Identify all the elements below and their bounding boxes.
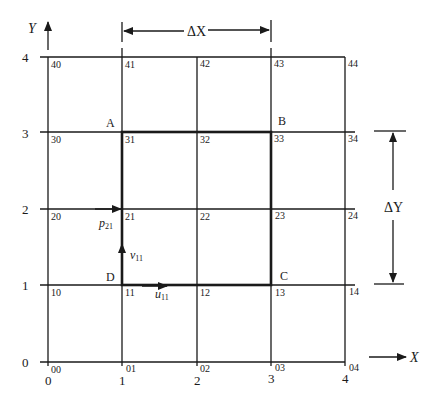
y-axis-label: Y xyxy=(28,21,38,36)
node-01: 01 xyxy=(126,363,136,374)
corner-label-d: D xyxy=(106,270,115,284)
delta-y-label: ΔY xyxy=(384,200,403,215)
node-34: 34 xyxy=(348,133,358,144)
node-03: 03 xyxy=(275,362,285,373)
node-04: 04 xyxy=(349,362,359,373)
node-12: 12 xyxy=(200,287,210,298)
x-tick-4: 4 xyxy=(342,371,349,386)
v11-label: v11 xyxy=(130,248,143,263)
x-tick-1: 1 xyxy=(119,373,126,388)
x-tick-labels: 0 1 2 3 4 xyxy=(45,371,349,388)
node-02: 02 xyxy=(200,363,210,374)
node-43: 43 xyxy=(274,58,284,69)
staggered-grid-diagram: Y X 4 3 2 1 0 0 1 2 3 4 40 41 42 43 44 3… xyxy=(0,0,439,408)
node-41: 41 xyxy=(125,59,135,70)
node-42: 42 xyxy=(200,58,210,69)
y-tick-4: 4 xyxy=(22,50,29,65)
node-11: 11 xyxy=(125,287,135,298)
y-tick-labels: 4 3 2 1 0 xyxy=(22,50,29,370)
corner-label-b: B xyxy=(278,114,286,128)
delta-x-label: ΔX xyxy=(187,24,206,39)
y-tick-0: 0 xyxy=(22,355,29,370)
y-tick-1: 1 xyxy=(22,278,29,293)
p21-label: p21 xyxy=(98,216,113,231)
node-24: 24 xyxy=(348,210,358,221)
node-10: 10 xyxy=(51,287,61,298)
node-21: 21 xyxy=(125,211,135,222)
x-tick-2: 2 xyxy=(194,373,201,388)
corner-label-a: A xyxy=(106,116,115,130)
node-20: 20 xyxy=(51,211,61,222)
corner-label-c: C xyxy=(280,269,288,283)
x-tick-3: 3 xyxy=(268,371,275,386)
node-40: 40 xyxy=(51,59,61,70)
node-23: 23 xyxy=(275,210,285,221)
x-axis-label: X xyxy=(409,350,419,365)
node-labels: 40 41 42 43 44 30 31 32 33 34 20 21 22 2… xyxy=(51,58,359,375)
node-32: 32 xyxy=(200,134,210,145)
node-33: 33 xyxy=(274,133,284,144)
y-tick-3: 3 xyxy=(22,126,29,141)
y-tick-2: 2 xyxy=(22,202,29,217)
x-tick-0: 0 xyxy=(45,373,52,388)
grid-lines xyxy=(40,48,355,366)
node-31: 31 xyxy=(125,134,135,145)
node-30: 30 xyxy=(51,134,61,145)
node-22: 22 xyxy=(200,211,210,222)
node-44: 44 xyxy=(348,58,358,69)
node-00: 00 xyxy=(51,364,61,375)
node-14: 14 xyxy=(349,286,359,297)
node-13: 13 xyxy=(275,287,285,298)
u11-label: u11 xyxy=(155,287,169,302)
